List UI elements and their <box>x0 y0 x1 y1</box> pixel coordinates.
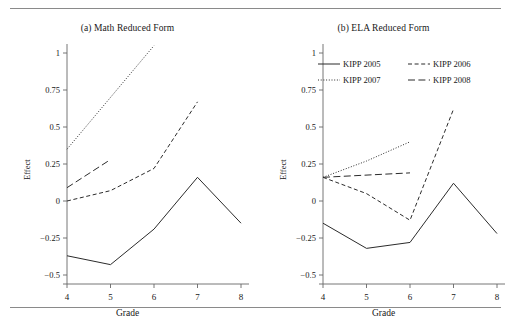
y-tick-label: 1 <box>312 48 316 58</box>
x-tick-label: 6 <box>152 292 157 302</box>
series-line-kipp-2006 <box>323 109 454 220</box>
x-tick-label: 8 <box>239 292 244 302</box>
panel-ela: (b) ELA Reduced Form 10.750.50.250−0.25−… <box>256 9 511 308</box>
series-line-kipp-2005 <box>67 177 241 264</box>
y-tick-label: 1 <box>56 48 60 58</box>
x-tick-label: 4 <box>321 292 326 302</box>
y-tick-label: 0 <box>56 196 60 206</box>
series-line-kipp-2008 <box>323 173 410 177</box>
series-line-kipp-2006 <box>67 102 198 201</box>
y-tick-label: 0 <box>312 196 316 206</box>
figure-container: (a) Math Reduced Form 10.750.50.250−0.25… <box>0 9 511 308</box>
y-tick-label: −0.5 <box>45 270 60 280</box>
series-line-kipp-2007 <box>67 46 154 150</box>
y-tick-label: 0.5 <box>305 122 316 132</box>
legend-entry-kipp-2007: KIPP 2007 <box>318 75 381 85</box>
y-tick-label: 0.25 <box>301 159 316 169</box>
legend-entry-kipp-2005: KIPP 2005 <box>318 59 381 69</box>
series-line-kipp-2007 <box>323 142 410 178</box>
y-tick-label: 0.75 <box>45 85 60 95</box>
x-axis-label-math: Grade <box>0 308 255 318</box>
y-tick-label: −0.25 <box>40 233 60 243</box>
y-axis-label-ela: Effect <box>278 159 288 180</box>
x-tick-label: 7 <box>451 292 456 302</box>
x-tick-label: 8 <box>495 292 500 302</box>
x-tick-label: 7 <box>195 292 200 302</box>
panel-math: (a) Math Reduced Form 10.750.50.250−0.25… <box>0 9 255 308</box>
legend-label: KIPP 2008 <box>433 75 471 85</box>
legend-label: KIPP 2005 <box>343 59 381 69</box>
y-tick-label: 0.5 <box>49 122 60 132</box>
x-axis-label-ela: Grade <box>256 308 511 318</box>
legend-label: KIPP 2007 <box>343 75 381 85</box>
x-tick-label: 5 <box>364 292 369 302</box>
ela-reduced-form-chart: 10.750.50.250−0.25−0.545678KIPP 2005KIPP… <box>256 9 511 308</box>
legend-entry-kipp-2008: KIPP 2008 <box>408 75 471 85</box>
y-tick-label: −0.25 <box>296 233 316 243</box>
y-tick-label: −0.5 <box>301 270 316 280</box>
y-tick-label: 0.25 <box>45 159 60 169</box>
y-tick-label: 0.75 <box>301 85 316 95</box>
x-tick-label: 5 <box>108 292 113 302</box>
legend-label: KIPP 2006 <box>433 59 471 69</box>
x-tick-label: 4 <box>65 292 70 302</box>
math-reduced-form-chart: 10.750.50.250−0.25−0.545678 <box>0 9 255 308</box>
series-line-kipp-2008 <box>67 160 111 188</box>
y-axis-label-math: Effect <box>22 159 32 180</box>
legend-entry-kipp-2006: KIPP 2006 <box>408 59 471 69</box>
series-line-kipp-2005 <box>323 183 497 248</box>
x-tick-label: 6 <box>408 292 413 302</box>
